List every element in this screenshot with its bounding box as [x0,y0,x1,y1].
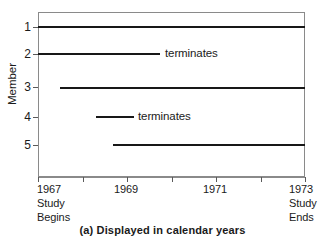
y-tick-label-4: 4 [24,111,31,123]
study-begins-line2: Begins [37,211,70,224]
y-tick-label-5: 5 [24,139,31,151]
member-line-3 [60,87,305,89]
x-tick-1968 [83,177,84,182]
study-ends-line1: Study [289,197,317,210]
terminates-label-member-4: terminates [138,110,191,122]
x-tick-1970 [172,177,173,182]
study-ends-line2: Ends [289,211,314,224]
member-line-1 [38,26,305,28]
y-tick-label-3: 3 [24,81,31,93]
x-tick-label-1971: 1971 [203,183,227,195]
x-tick-label-1969: 1969 [114,183,138,195]
study-begins-line1: Study [37,197,65,210]
member-line-4 [96,116,134,118]
x-tick-1967 [38,177,39,182]
terminates-label-member-2: terminates [165,47,218,59]
member-line-2 [38,53,160,55]
x-tick-1971 [216,177,217,182]
x-tick-1969 [127,177,128,182]
x-tick-1972 [261,177,262,182]
y-tick-4 [33,117,38,118]
plot-frame [38,12,305,177]
member-line-5 [113,144,305,146]
x-tick-1973 [305,177,306,182]
y-axis-title: Member [6,54,18,114]
y-tick-5 [33,145,38,146]
x-tick-label-1967: 1967 [37,183,61,195]
y-tick-3 [33,87,38,88]
figure-panel-a: Member 1 2 3 4 5 1967 1969 1971 1973 Stu… [0,0,325,250]
figure-caption: (a) Displayed in calendar years [0,224,325,236]
y-axis-line [38,12,39,178]
y-tick-label-1: 1 [24,21,31,33]
x-tick-label-1973: 1973 [289,183,313,195]
y-tick-label-2: 2 [24,48,31,60]
